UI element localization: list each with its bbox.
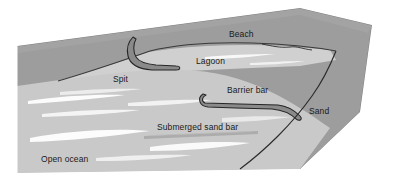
label-open-ocean: Open ocean xyxy=(41,155,88,164)
label-beach: Beach xyxy=(229,30,254,39)
coastal-landforms-figure: Beach Lagoon Spit Barrier bar Sand Subme… xyxy=(0,0,410,181)
label-submerged-sand-bar: Submerged sand bar xyxy=(157,123,238,132)
label-sand: Sand xyxy=(309,107,329,116)
label-spit: Spit xyxy=(113,75,128,84)
label-lagoon: Lagoon xyxy=(196,57,225,66)
label-barrier-bar: Barrier bar xyxy=(227,86,268,95)
